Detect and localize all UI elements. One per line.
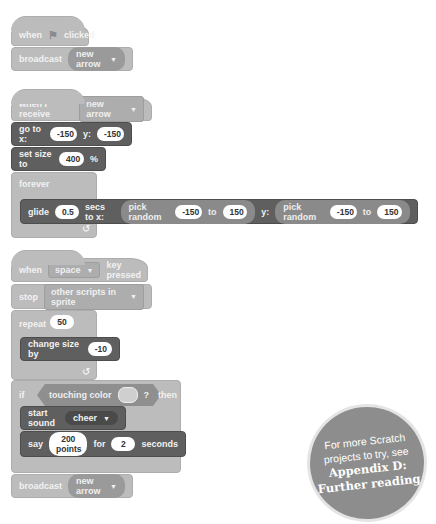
when-label: when [19, 265, 42, 275]
chevron-down-icon: ▼ [110, 483, 117, 490]
x-input[interactable]: -150 [50, 127, 77, 141]
broadcast-block[interactable]: broadcast new arrow▼ [11, 47, 133, 71]
color-swatch[interactable] [118, 387, 138, 403]
start-sound-label: start sound [28, 408, 59, 428]
say-for-secs-block[interactable]: say 200 points for 2 seconds [20, 431, 186, 457]
y-to-input[interactable]: 150 [377, 205, 402, 219]
when-i-receive-label: when I receive [19, 99, 73, 119]
stop-dropdown[interactable]: other scripts in sprite▼ [44, 284, 144, 310]
loop-arrow-icon: ↺ [82, 366, 90, 377]
chevron-down-icon: ▼ [103, 415, 110, 422]
green-flag-icon: ⚑ [48, 29, 58, 42]
for-label: for [93, 439, 105, 449]
say-text-input[interactable]: 200 points [49, 432, 87, 456]
chevron-down-icon: ▼ [87, 267, 94, 274]
x-to-input[interactable]: 150 [223, 205, 248, 219]
then-label: then [158, 390, 177, 400]
pick-random-x-reporter[interactable]: pick random -150 to 150 [121, 200, 256, 224]
if-label: if [19, 390, 25, 400]
sound-dropdown[interactable]: cheer▼ [65, 411, 118, 425]
touching-color-condition[interactable]: touching color ? [37, 384, 161, 406]
stop-block[interactable]: stop other scripts in sprite▼ [11, 284, 152, 309]
when-flag-clicked-block[interactable]: when ⚑ clicked [11, 24, 89, 46]
change-size-input[interactable]: -10 [88, 342, 112, 356]
when-label: when [19, 30, 42, 40]
broadcast-dropdown[interactable]: new arrow▼ [68, 47, 125, 71]
broadcast-dropdown[interactable]: new arrow▼ [68, 474, 125, 498]
receive-dropdown[interactable]: new arrow▼ [79, 96, 144, 122]
go-to-xy-block[interactable]: go to x: -150 y: -150 [11, 122, 132, 146]
y-label: y: [261, 207, 269, 217]
chevron-down-icon: ▼ [110, 56, 117, 63]
go-to-label: go to x: [19, 124, 44, 144]
stop-label: stop [19, 292, 38, 302]
x-from-input[interactable]: -150 [175, 205, 202, 219]
y-from-input[interactable]: -150 [330, 205, 357, 219]
when-i-receive-block[interactable]: when I receive new arrow▼ [11, 97, 152, 121]
y-input[interactable]: -150 [97, 127, 124, 141]
glide-secs-input[interactable]: 0.5 [55, 205, 79, 219]
glide-block[interactable]: glide 0.5 secs to x: pick random -150 to… [20, 199, 418, 224]
pick-random-y-reporter[interactable]: pick random -150 to 150 [275, 200, 410, 224]
change-size-label: change size by [28, 339, 82, 359]
set-size-label: set size to [19, 149, 53, 169]
chevron-down-icon: ▼ [130, 106, 137, 113]
further-reading-badge: For more Scratch projects to try, see Ap… [301, 398, 433, 524]
y-label: y: [83, 129, 91, 139]
loop-arrow-icon: ↺ [82, 223, 90, 234]
say-secs-input[interactable]: 2 [111, 437, 135, 451]
repeat-label: repeat [19, 319, 46, 329]
seconds-label: seconds [141, 439, 178, 449]
broadcast-block-2[interactable]: broadcast new arrow▼ [11, 474, 133, 498]
repeat-input[interactable]: 50 [50, 315, 74, 329]
percent-label: % [90, 154, 98, 164]
when-key-pressed-block[interactable]: when space▼ key pressed [11, 258, 148, 282]
clicked-label: clicked [64, 30, 95, 40]
broadcast-label: broadcast [19, 481, 62, 491]
broadcast-label: broadcast [19, 54, 62, 64]
set-size-block[interactable]: set size to 400 % [11, 147, 106, 171]
say-label: say [28, 439, 43, 449]
chevron-down-icon: ▼ [130, 293, 137, 300]
forever-label: forever [19, 179, 50, 189]
key-pressed-label: key pressed [106, 260, 141, 280]
key-dropdown[interactable]: space▼ [48, 262, 100, 278]
glide-label: glide [28, 207, 49, 217]
start-sound-block[interactable]: start sound cheer▼ [20, 406, 126, 430]
size-input[interactable]: 400 [59, 152, 84, 166]
secs-to-x-label: secs to x: [85, 202, 115, 222]
change-size-block[interactable]: change size by -10 [20, 337, 120, 361]
